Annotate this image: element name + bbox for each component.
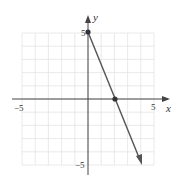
point-y-intercept bbox=[85, 29, 90, 34]
y-tick-neg5: −5 bbox=[75, 160, 85, 170]
y-axis-arrow-icon bbox=[85, 15, 91, 23]
y-tick-5: 5 bbox=[81, 28, 86, 38]
y-axis-label: y bbox=[92, 11, 98, 23]
coordinate-plane: x y −5 5 5 −5 bbox=[0, 0, 182, 178]
line-arrow-icon bbox=[136, 154, 142, 165]
point-x-intercept bbox=[112, 96, 117, 101]
x-tick-5: 5 bbox=[151, 102, 156, 112]
x-axis-label: x bbox=[165, 102, 171, 114]
x-tick-neg5: −5 bbox=[14, 103, 24, 113]
